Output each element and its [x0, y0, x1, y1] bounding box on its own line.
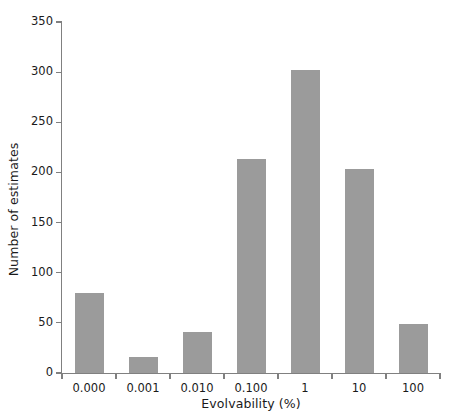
bar: [291, 70, 320, 373]
bar-chart-figure: Number of estimates Evolvability (%) 050…: [0, 0, 455, 419]
bar: [75, 293, 104, 373]
x-axis-tick: [439, 374, 440, 379]
x-axis-tick-label: 0.010: [167, 381, 227, 395]
y-axis-tick-label: 150: [24, 215, 53, 229]
y-axis-tick-label: 250: [24, 114, 53, 128]
bar: [345, 169, 374, 373]
bar: [237, 159, 266, 373]
plot-area: [62, 22, 440, 373]
x-axis-title: Evolvability (%): [62, 396, 440, 411]
x-axis-tick: [223, 374, 224, 379]
y-axis-tick: [56, 122, 61, 123]
y-axis-tick-label: 100: [24, 265, 53, 279]
bar: [129, 357, 158, 373]
x-axis-tick-label: 0.000: [59, 381, 119, 395]
y-axis-title: Number of estimates: [0, 0, 26, 419]
x-axis-tick: [331, 374, 332, 379]
y-axis-tick: [56, 322, 61, 323]
y-axis-tick-label: 50: [24, 315, 53, 329]
y-axis-tick-label: 350: [24, 14, 53, 28]
y-axis-tick: [56, 172, 61, 173]
bar: [183, 332, 212, 373]
x-axis-tick-label: 0.001: [113, 381, 173, 395]
x-axis-tick-label: 1: [275, 381, 335, 395]
y-axis-tick-label: 300: [24, 64, 53, 78]
x-axis-spine: [61, 373, 441, 374]
y-axis-tick: [56, 372, 61, 373]
x-axis-tick-label: 10: [329, 381, 389, 395]
y-axis-tick-label: 0: [24, 365, 53, 379]
y-axis-tick-label: 200: [24, 164, 53, 178]
bar: [399, 324, 428, 373]
x-axis-tick: [61, 374, 62, 379]
x-axis-tick: [277, 374, 278, 379]
y-axis-tick: [56, 222, 61, 223]
x-axis-tick: [169, 374, 170, 379]
y-axis-tick: [56, 272, 61, 273]
y-axis-tick: [56, 72, 61, 73]
x-axis-tick-label: 100: [383, 381, 443, 395]
y-axis-tick: [56, 21, 61, 22]
x-axis-tick: [385, 374, 386, 379]
x-axis-tick: [115, 374, 116, 379]
x-axis-tick-label: 0.100: [221, 381, 281, 395]
